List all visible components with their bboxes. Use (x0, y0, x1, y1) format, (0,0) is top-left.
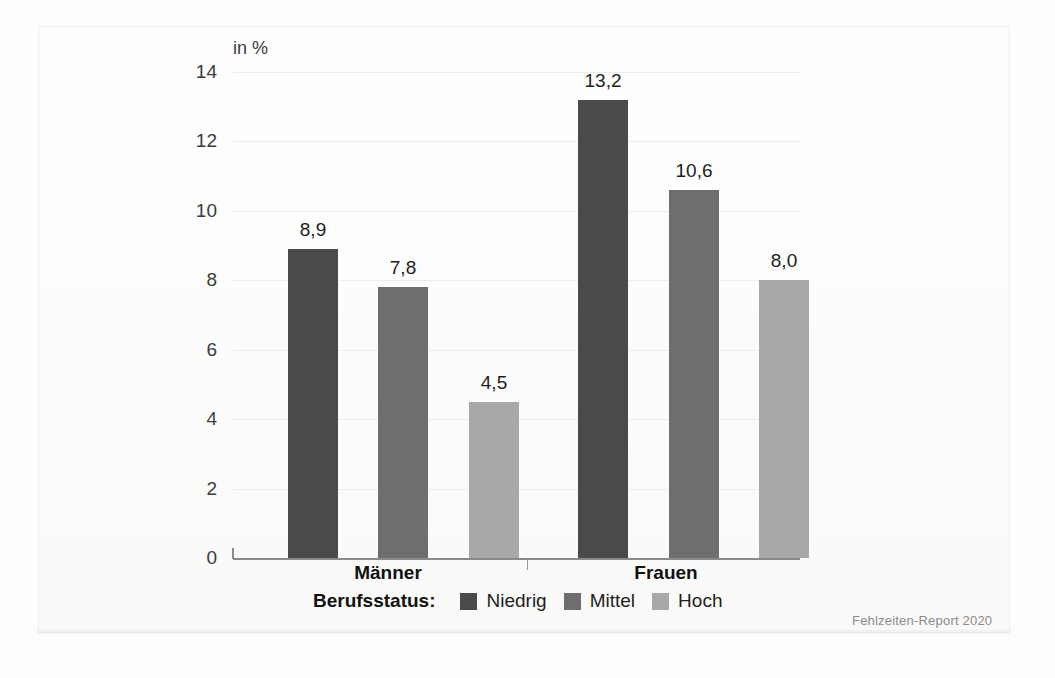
group-separator-tick (527, 558, 528, 570)
legend-item-niedrig[interactable]: Niedrig (460, 590, 546, 612)
bar-value-label: 4,5 (481, 372, 507, 394)
legend-swatch-hoch (652, 593, 669, 610)
bar-frauen-mittel[interactable]: 10,6 (669, 72, 719, 558)
bar-frauen-niedrig[interactable]: 13,2 (578, 72, 628, 558)
bar-rect (288, 249, 338, 558)
y-tick-label-8: 8 (206, 269, 217, 291)
legend-swatch-niedrig (460, 593, 477, 610)
axis-baseline: 0 (233, 558, 800, 560)
bar-rect (669, 190, 719, 558)
y-tick-label-12: 12 (196, 130, 217, 152)
legend-item-hoch[interactable]: Hoch (652, 590, 722, 612)
bar-rect (378, 287, 428, 558)
y-tick-label-2: 2 (206, 478, 217, 500)
legend-title: Berufsstatus: (313, 590, 435, 612)
bar-rect (469, 402, 519, 558)
bar-value-label: 8,0 (771, 250, 797, 272)
bar-rect (578, 100, 628, 558)
y-tick-label-14: 14 (196, 61, 217, 83)
y-axis-unit-label: in % (233, 38, 268, 59)
legend-label-mittel: Mittel (590, 590, 635, 612)
bar-value-label: 13,2 (585, 70, 622, 92)
y-tick-label-6: 6 (206, 339, 217, 361)
legend-label-niedrig: Niedrig (486, 590, 546, 612)
bar-value-label: 8,9 (300, 219, 326, 241)
bar-value-label: 7,8 (390, 257, 416, 279)
y-axis-line (232, 548, 234, 559)
legend-label-hoch: Hoch (678, 590, 722, 612)
legend: Berufsstatus: Niedrig Mittel Hoch (313, 590, 722, 612)
bar-männer-niedrig[interactable]: 8,9 (288, 72, 338, 558)
legend-item-mittel[interactable]: Mittel (564, 590, 635, 612)
bar-frauen-hoch[interactable]: 8,0 (759, 72, 809, 558)
y-tick-label-0: 0 (206, 547, 217, 569)
bar-value-label: 10,6 (676, 160, 713, 182)
y-tick-label-4: 4 (206, 408, 217, 430)
category-label-maenner: Männer (354, 562, 422, 584)
legend-swatch-mittel (564, 593, 581, 610)
bar-männer-mittel[interactable]: 7,8 (378, 72, 428, 558)
bar-männer-hoch[interactable]: 4,5 (469, 72, 519, 558)
y-tick-label-10: 10 (196, 200, 217, 222)
category-label-frauen: Frauen (634, 562, 697, 584)
plot-area: 141210864208,97,84,513,210,68,0 (233, 72, 800, 558)
source-note: Fehlzeiten-Report 2020 (852, 613, 992, 628)
bar-rect (759, 280, 809, 558)
chart-figure: in % 141210864208,97,84,513,210,68,0 Män… (0, 0, 1055, 678)
